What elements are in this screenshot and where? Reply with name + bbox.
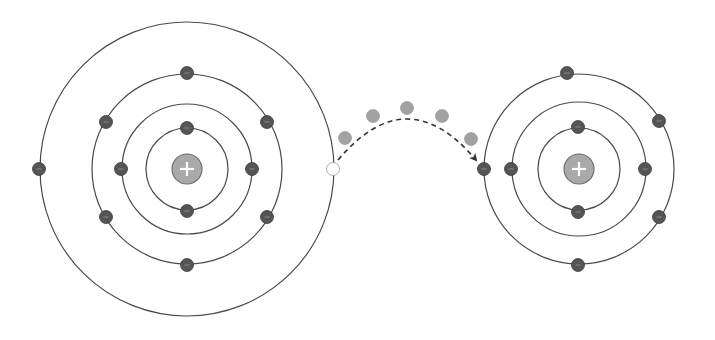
atoms-layer [33, 22, 675, 316]
transfer-arrow [338, 119, 476, 160]
electron [181, 122, 194, 135]
electron [572, 259, 585, 272]
transit-electron [436, 110, 449, 123]
electron [115, 163, 128, 176]
electron [181, 259, 194, 272]
electron [653, 115, 666, 128]
electron [572, 206, 585, 219]
electron [261, 116, 274, 129]
electron [246, 163, 259, 176]
electron [33, 163, 46, 176]
transit-electron [339, 132, 352, 145]
nucleus [172, 154, 202, 184]
electron [478, 163, 491, 176]
electron [181, 67, 194, 80]
electron [653, 211, 666, 224]
electron [561, 67, 574, 80]
transit-electron [367, 110, 380, 123]
electron-vacancy [327, 163, 340, 176]
acceptor-atom [478, 67, 675, 272]
nucleus [564, 154, 594, 184]
electron [261, 211, 274, 224]
electron [505, 163, 518, 176]
donor-atom [33, 22, 340, 316]
electron-transfer-diagram [0, 0, 715, 340]
diagram-canvas [0, 0, 715, 340]
transfer-layer [338, 102, 478, 161]
electron [181, 205, 194, 218]
transit-electron [401, 102, 414, 115]
electron [100, 211, 113, 224]
transit-electron [465, 133, 478, 146]
electron [572, 121, 585, 134]
electron [100, 116, 113, 129]
electron [639, 163, 652, 176]
